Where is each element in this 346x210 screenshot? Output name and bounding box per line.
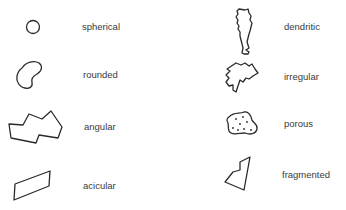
acicular-shape-icon: [14, 171, 50, 200]
label-spherical: spherical: [82, 22, 120, 32]
label-irregular: irregular: [284, 72, 319, 82]
irregular-shape-icon: [226, 63, 258, 92]
label-angular: angular: [84, 122, 116, 132]
spherical-shape-icon: [27, 21, 40, 34]
porous-shape-icon: [227, 112, 257, 134]
rounded-shape-icon: [17, 62, 42, 89]
label-rounded: rounded: [83, 70, 118, 80]
label-porous: porous: [284, 119, 313, 129]
label-fragmented: fragmented: [282, 170, 330, 180]
label-dendritic: dendritic: [284, 22, 320, 32]
particle-shape-diagram: spherical rounded angular acicular dendr…: [0, 0, 346, 210]
porous-pores: [232, 116, 252, 131]
fragmented-shape-icon: [225, 157, 250, 190]
angular-shape-icon: [9, 111, 62, 143]
label-acicular: acicular: [83, 181, 116, 191]
dendritic-shape-icon: [236, 9, 252, 54]
